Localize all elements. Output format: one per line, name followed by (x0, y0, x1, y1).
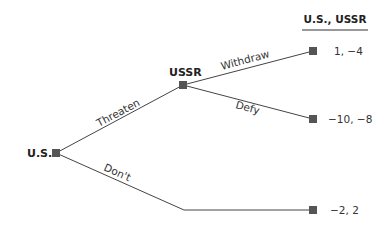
ussr-decision-node (179, 81, 187, 89)
payoff-header: U.S., USSR (304, 13, 367, 25)
game-tree-diagram: U.S., USSR U.S. USSR Threaten Don't With… (0, 0, 386, 227)
payoff-dont: −2, 2 (330, 204, 359, 216)
terminal-node-defy (309, 115, 317, 123)
payoff-defy: −10, −8 (328, 113, 372, 125)
terminal-node-withdraw (309, 47, 317, 55)
payoff-withdraw: 1, −4 (334, 45, 363, 57)
player-label-ussr: USSR (169, 66, 202, 79)
player-label-us: U.S. (27, 147, 52, 160)
us-decision-node (52, 149, 60, 157)
edge-label-threaten: Threaten (93, 96, 141, 129)
terminal-node-dont (309, 206, 317, 214)
edge-label-defy: Defy (234, 98, 261, 116)
edge-threaten (56, 85, 183, 153)
edge-dont (56, 153, 313, 210)
